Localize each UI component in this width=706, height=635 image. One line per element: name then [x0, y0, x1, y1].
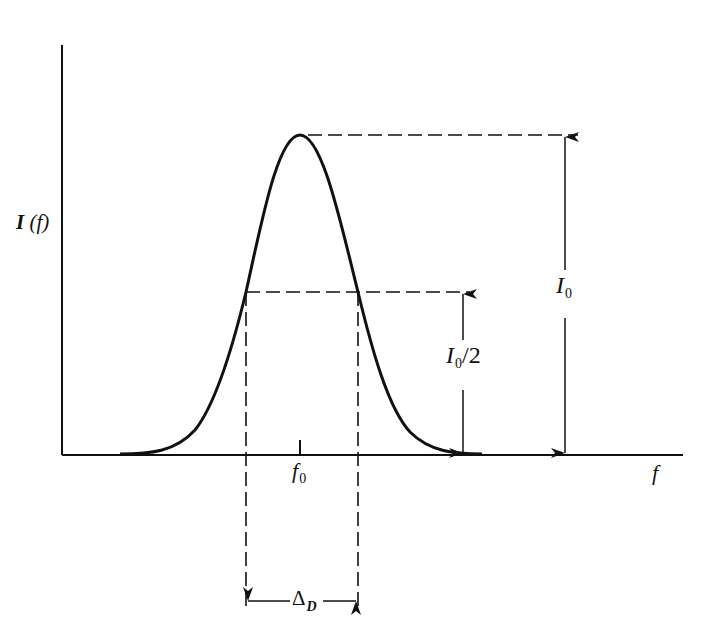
- center-frequency-main: f: [292, 458, 298, 483]
- linewidth-label: ΔD: [292, 586, 317, 611]
- peak-intensity-sub: 0: [565, 286, 572, 301]
- y-axis-label-arg: (f): [29, 210, 49, 234]
- y-axis-label: I (f): [16, 210, 49, 235]
- center-frequency-label: f0: [292, 458, 306, 484]
- half-intensity-label: I0/2: [446, 342, 481, 369]
- half-intensity-suffix: /2: [462, 342, 481, 368]
- doppler-profile-figure: I (f) f f0 I0 I0/2 ΔD: [0, 0, 706, 635]
- peak-intensity-main: I: [556, 272, 564, 298]
- x-axis-label-text: f: [652, 460, 658, 485]
- linewidth-sub: D: [307, 599, 317, 614]
- diagram-canvas: [0, 0, 706, 635]
- x-axis-label: f: [652, 460, 658, 486]
- half-intensity-sub: 0: [455, 356, 462, 371]
- y-axis-label-main: I: [16, 210, 24, 234]
- linewidth-main: Δ: [292, 586, 306, 610]
- peak-intensity-label: I0: [556, 272, 572, 299]
- center-frequency-sub: 0: [299, 471, 306, 486]
- half-intensity-main: I: [446, 342, 454, 368]
- gaussian-curve: [120, 135, 482, 454]
